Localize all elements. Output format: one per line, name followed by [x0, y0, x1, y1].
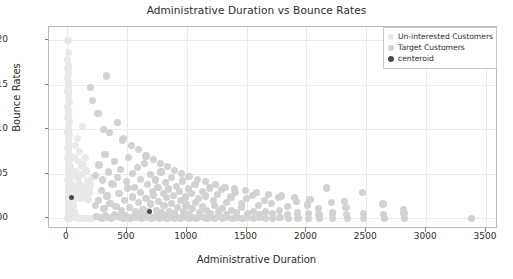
y-axis-tick-label: 0.00	[0, 212, 8, 222]
x-axis-tick-mark	[425, 228, 426, 232]
x-axis-tick-mark	[126, 228, 127, 232]
y-axis-label: Bounce Rates	[11, 38, 22, 158]
y-axis-tick-label: 0.20	[0, 34, 8, 44]
chart-legend: Un-interested CustomersTarget Customersc…	[383, 27, 497, 69]
y-axis-tick-mark	[45, 217, 49, 218]
x-axis-tick-mark	[66, 228, 67, 232]
y-axis-tick-label: 0.05	[0, 168, 8, 178]
x-axis-tick-label: 2500	[335, 231, 395, 241]
y-axis-tick-mark	[45, 128, 49, 129]
x-axis-tick-mark	[186, 228, 187, 232]
x-axis-tick-label: 0	[36, 231, 96, 241]
x-axis-tick-label: 1000	[156, 231, 216, 241]
scatter-chart-figure: Administrative Duration vs Bounce Rates …	[0, 0, 513, 279]
x-axis-tick-mark	[305, 228, 306, 232]
legend-item: Target Customers	[388, 43, 492, 54]
centroid-point	[147, 209, 152, 214]
x-axis-tick-label: 3500	[455, 231, 513, 241]
y-axis-tick-mark	[45, 173, 49, 174]
legend-marker-icon	[388, 45, 394, 51]
legend-item-label: Un-interested Customers	[398, 33, 493, 41]
y-axis-tick-label: 0.15	[0, 79, 8, 89]
x-axis-tick-mark	[365, 228, 366, 232]
chart-title: Administrative Duration vs Bounce Rates	[0, 4, 513, 16]
legend-item-label: Target Customers	[398, 44, 465, 52]
legend-marker-icon	[388, 34, 394, 40]
x-axis-tick-label: 500	[96, 231, 156, 241]
legend-item-label: centeroid	[398, 55, 434, 63]
legend-item: centeroid	[388, 54, 492, 65]
legend-marker-icon	[388, 56, 394, 62]
x-axis-tick-label: 1500	[216, 231, 276, 241]
centroid-point	[69, 195, 74, 200]
x-axis-tick-label: 2000	[275, 231, 335, 241]
x-axis-tick-mark	[485, 228, 486, 232]
y-axis-tick-mark	[45, 84, 49, 85]
x-axis-tick-label: 3000	[395, 231, 455, 241]
y-axis-tick-mark	[45, 39, 49, 40]
x-axis-label: Administrative Duration	[0, 254, 513, 265]
y-axis-tick-label: 0.10	[0, 123, 8, 133]
x-axis-tick-mark	[246, 228, 247, 232]
legend-item: Un-interested Customers	[388, 32, 492, 43]
